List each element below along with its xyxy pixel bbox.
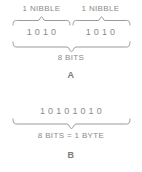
byte-digits: 1 0 1 0 1 0 1 0 — [40, 106, 102, 117]
brace-eight-bits-down — [0, 41, 142, 53]
nibble-left-digits: 1 0 1 0 — [12, 27, 71, 38]
brace-nibble-right-up — [0, 16, 142, 26]
panel-b: 1 0 1 0 1 0 1 0 8 BITS = 1 BYTE B — [0, 100, 142, 172]
eight-bits-label: 8 BITS — [58, 53, 85, 63]
nibble-label-left: 1 NIBBLE — [12, 4, 71, 14]
eight-bits-equals-one-byte-label: 8 BITS = 1 BYTE — [38, 131, 104, 141]
panel-b-digit-row: 1 0 1 0 1 0 1 0 — [0, 106, 142, 117]
panel-a: 1 NIBBLE 1 NIBBLE 1 0 1 0 1 0 1 0 8 BITS — [0, 0, 142, 86]
nibble-label-right: 1 NIBBLE — [71, 4, 130, 14]
panel-b-letter-row: B — [0, 150, 142, 160]
panel-a-total-row: 8 BITS — [0, 53, 142, 63]
panel-a-letter: A — [68, 70, 75, 80]
panel-b-letter: B — [68, 150, 75, 160]
bit-nibble-byte-diagram: 1 NIBBLE 1 NIBBLE 1 0 1 0 1 0 1 0 8 BITS — [0, 0, 142, 172]
panel-a-digit-rows: 1 0 1 0 1 0 1 0 — [0, 27, 142, 38]
panel-b-total-row: 8 BITS = 1 BYTE — [0, 131, 142, 141]
brace-one-byte-down — [0, 118, 142, 130]
nibble-right-digits: 1 0 1 0 — [71, 27, 130, 38]
panel-a-nibble-labels: 1 NIBBLE 1 NIBBLE — [0, 4, 142, 14]
panel-a-letter-row: A — [0, 70, 142, 80]
